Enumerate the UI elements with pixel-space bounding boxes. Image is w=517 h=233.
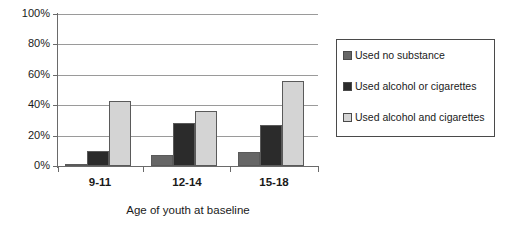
legend-label-used-no-substance: Used no substance (355, 49, 445, 61)
y-tick-label-80: 80% (0, 38, 50, 49)
legend-swatch-used-alcohol-or-cigarettes (343, 82, 352, 91)
bar-12-14-used-alcohol-or-cigarettes[interactable] (173, 123, 195, 166)
bar-12-14-used-no-substance[interactable] (151, 155, 173, 166)
x-axis-title: Age of youth at baseline (58, 204, 318, 217)
bar-group-9-11 (58, 14, 143, 166)
y-tick-label-20: 20% (0, 130, 50, 141)
bar-group-12-14 (143, 14, 230, 166)
y-tick-label-60: 60% (0, 69, 50, 80)
x-tick-mark-0 (58, 167, 59, 172)
plot-area (58, 14, 318, 166)
legend-label-used-alcohol-and-cigarettes: Used alcohol and cigarettes (355, 111, 485, 123)
x-axis-line (57, 166, 319, 167)
legend-swatch-used-no-substance (343, 51, 352, 60)
legend-item-used-no-substance[interactable]: Used no substance (343, 49, 495, 61)
y-tick-label-100: 100% (0, 8, 50, 19)
legend-item-used-alcohol-or-cigarettes[interactable]: Used alcohol or cigarettes (343, 80, 495, 92)
bar-9-11-used-alcohol-or-cigarettes[interactable] (87, 151, 109, 166)
y-axis-tick-labels: 100% 80% 60% 40% 20% 0% (0, 0, 50, 233)
legend-item-used-alcohol-and-cigarettes[interactable]: Used alcohol and cigarettes (343, 111, 495, 123)
bar-chart-figure: 100% 80% 60% 40% 20% 0% (0, 0, 517, 233)
y-tick-label-0: 0% (0, 160, 50, 171)
bar-9-11-used-alcohol-and-cigarettes[interactable] (109, 101, 131, 166)
chart-legend: Used no substance Used alcohol or cigare… (336, 39, 495, 137)
y-tick-label-40: 40% (0, 99, 50, 110)
x-tick-mark-3 (318, 167, 319, 172)
x-tick-label-12-14: 12-14 (142, 176, 232, 189)
legend-label-used-alcohol-or-cigarettes: Used alcohol or cigarettes (355, 80, 476, 92)
x-tick-mark-2 (230, 167, 231, 172)
bar-15-18-used-alcohol-and-cigarettes[interactable] (282, 81, 304, 166)
x-tick-mark-1 (143, 167, 144, 172)
legend-swatch-used-alcohol-and-cigarettes (343, 113, 352, 122)
bar-15-18-used-no-substance[interactable] (238, 152, 260, 166)
bar-group-15-18 (230, 14, 318, 166)
bar-15-18-used-alcohol-or-cigarettes[interactable] (260, 125, 282, 166)
bar-12-14-used-alcohol-and-cigarettes[interactable] (195, 111, 217, 166)
x-tick-label-15-18: 15-18 (229, 176, 319, 189)
x-tick-label-9-11: 9-11 (55, 176, 145, 189)
